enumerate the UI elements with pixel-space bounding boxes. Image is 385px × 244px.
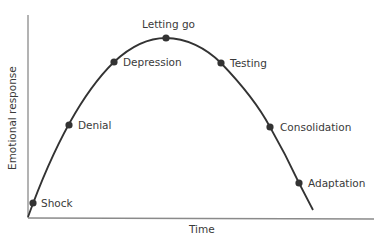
point-denial (65, 121, 72, 128)
change-curve-chart: Shock Denial Depression Letting go Testi… (0, 0, 385, 244)
point-shock (29, 199, 36, 206)
x-axis (28, 218, 374, 219)
label-adaptation: Adaptation (308, 177, 365, 189)
label-denial: Denial (78, 119, 111, 131)
label-consolidation: Consolidation (280, 121, 351, 133)
y-axis-label: Emotional response (6, 66, 18, 170)
label-testing: Testing (229, 57, 267, 69)
point-depression (110, 58, 117, 65)
label-shock: Shock (41, 197, 74, 209)
point-testing (217, 59, 224, 66)
point-consolidation (266, 123, 273, 130)
label-depression: Depression (123, 56, 182, 68)
x-axis-label: Time (188, 223, 215, 235)
point-letting-go (162, 34, 169, 41)
point-adaptation (295, 179, 302, 186)
label-letting-go: Letting go (142, 18, 195, 30)
